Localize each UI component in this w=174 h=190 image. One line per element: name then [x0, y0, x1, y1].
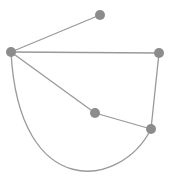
network-graph — [0, 0, 174, 190]
node-A[interactable] — [6, 47, 16, 57]
edges — [11, 15, 159, 171]
node-D[interactable] — [90, 108, 100, 118]
node-C[interactable] — [154, 48, 164, 58]
node-E[interactable] — [146, 124, 156, 134]
edge-A-B — [11, 15, 100, 52]
node-B[interactable] — [95, 10, 105, 20]
edge-A-C — [11, 52, 159, 53]
edge-A-D — [11, 52, 95, 113]
nodes — [6, 10, 164, 134]
edge-C-E — [151, 53, 159, 129]
edge-A-E — [11, 52, 151, 171]
edge-D-E — [95, 113, 151, 129]
